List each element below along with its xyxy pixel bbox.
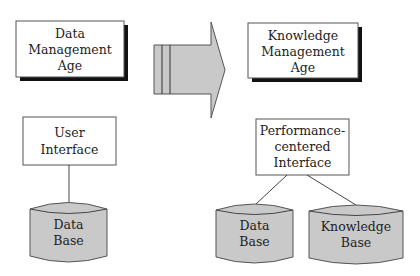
knowledge-base-cylinder-icon: Knowledge Base <box>309 205 403 264</box>
connector-line <box>307 175 356 205</box>
store-label-line: Data <box>240 218 270 233</box>
store-label-line: Base <box>53 233 83 248</box>
data-base-cylinder-icon: Data Base <box>216 204 293 263</box>
era-label-line: Management <box>261 44 344 59</box>
diagram-canvas: Data Management Age Knowledge Management… <box>0 0 420 276</box>
knowledge-management-age-box: Knowledge Management Age <box>248 23 362 82</box>
interface-label-line: Interface <box>41 142 99 157</box>
store-label-line: Base <box>239 234 269 249</box>
performance-centered-interface-box: Performance- centered Interface <box>256 119 349 175</box>
connector-line <box>256 175 287 204</box>
interface-label-line: User <box>54 125 84 140</box>
interface-label-line: centered <box>274 139 330 154</box>
era-label-line: Data <box>55 26 85 41</box>
interface-label-line: Interface <box>274 155 332 170</box>
interface-label-line: Performance- <box>260 123 345 138</box>
data-base-cylinder-icon: Data Base <box>30 203 107 263</box>
arrow-shape <box>154 22 225 118</box>
store-label-line: Base <box>341 235 371 250</box>
era-label-line: Management <box>28 42 111 57</box>
era-label-line: Age <box>290 60 315 75</box>
transition-arrow-icon <box>154 22 225 118</box>
data-management-age-box: Data Management Age <box>16 21 128 81</box>
era-label-line: Knowledge <box>268 28 338 43</box>
store-label-line: Data <box>54 217 84 232</box>
era-label-line: Age <box>57 58 82 73</box>
store-label-line: Knowledge <box>321 219 391 234</box>
user-interface-box: User Interface <box>23 117 116 165</box>
